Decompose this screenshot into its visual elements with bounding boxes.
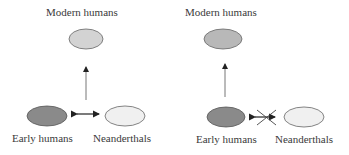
node-neanderthals [105, 106, 145, 126]
right-panel-no-interbreeding: Modern humans Early humans Neanderthals [175, 0, 349, 155]
node-neanderthals [284, 107, 324, 127]
label-neanderthals: Neanderthals [93, 132, 151, 144]
left-panel-interbreeding: Modern humans Early humans Neanderthals [0, 0, 175, 155]
right-diagram [175, 0, 349, 155]
label-early-humans: Early humans [196, 133, 257, 145]
node-early-humans [27, 106, 67, 126]
node-early-humans [207, 107, 245, 127]
label-modern-humans: Modern humans [185, 6, 257, 18]
label-neanderthals: Neanderthals [275, 133, 333, 145]
node-modern-humans [69, 29, 103, 49]
node-modern-humans [204, 29, 242, 49]
label-early-humans: Early humans [12, 132, 73, 144]
label-modern-humans: Modern humans [46, 6, 118, 18]
